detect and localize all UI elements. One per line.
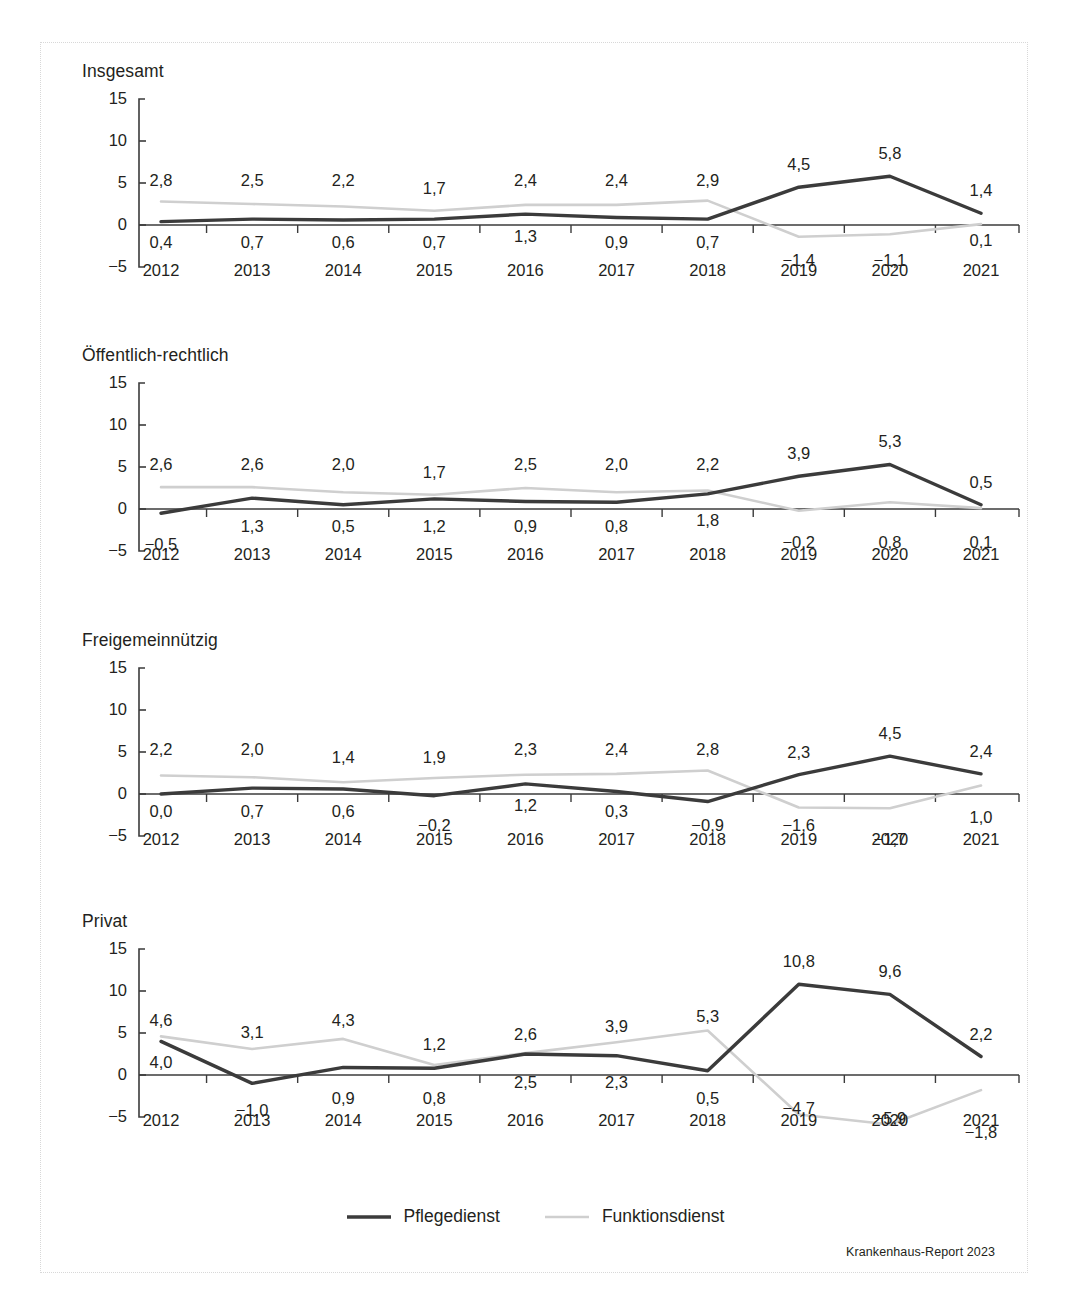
- data-value-label: 2,2: [676, 455, 740, 474]
- data-value-label: 4,0: [129, 1053, 193, 1072]
- data-value-label: 0,4: [129, 233, 193, 252]
- data-value-label: 5,3: [676, 1007, 740, 1026]
- x-axis-label: 2016: [493, 830, 557, 849]
- data-value-label: 3,9: [585, 1017, 649, 1036]
- data-value-label: 3,9: [767, 444, 831, 463]
- y-axis-label: −5: [93, 541, 127, 560]
- data-value-label: −0,5: [129, 535, 193, 554]
- data-value-label: 2,3: [585, 1073, 649, 1092]
- y-axis-label: 5: [93, 173, 127, 192]
- data-value-label: 2,0: [220, 740, 284, 759]
- data-value-label: −1,0: [220, 1101, 284, 1120]
- x-axis-label: 2015: [402, 1111, 466, 1130]
- data-value-label: −1,7: [858, 830, 922, 849]
- data-value-label: 0,0: [129, 802, 193, 821]
- data-value-label: 2,2: [949, 1025, 1013, 1044]
- x-axis-label: 2012: [129, 830, 193, 849]
- x-axis-label: 2018: [676, 1111, 740, 1130]
- y-axis-label: 15: [93, 373, 127, 392]
- data-value-label: 5,8: [858, 144, 922, 163]
- data-value-label: 3,1: [220, 1023, 284, 1042]
- data-value-label: 1,2: [402, 1035, 466, 1054]
- y-axis-label: 5: [93, 457, 127, 476]
- data-value-label: 0,8: [858, 533, 922, 552]
- x-axis-label: 2017: [585, 830, 649, 849]
- y-axis-label: 5: [93, 1023, 127, 1042]
- plot-area: 151050−520122013201420152016201720182019…: [41, 660, 1029, 875]
- y-axis-label: 15: [93, 89, 127, 108]
- data-value-label: 2,6: [129, 455, 193, 474]
- data-value-label: 2,0: [311, 455, 375, 474]
- data-value-label: −1,4: [767, 251, 831, 270]
- x-axis-label: 2017: [585, 545, 649, 564]
- data-value-label: 1,2: [402, 517, 466, 536]
- plot-area: 151050−520122013201420152016201720182019…: [41, 91, 1029, 306]
- x-axis-label: 2016: [493, 545, 557, 564]
- x-axis-label: 2012: [129, 261, 193, 280]
- data-value-label: 0,6: [311, 802, 375, 821]
- data-value-label: 2,5: [493, 455, 557, 474]
- data-value-label: 2,4: [493, 171, 557, 190]
- panel-title: Öffentlich-rechtlich: [82, 345, 229, 366]
- light-line-icon: [544, 1208, 590, 1226]
- y-axis-label: 15: [93, 658, 127, 677]
- data-value-label: 4,5: [858, 724, 922, 743]
- y-axis-label: 15: [93, 939, 127, 958]
- x-axis-label: 2016: [493, 1111, 557, 1130]
- x-axis-label: 2013: [220, 830, 284, 849]
- data-value-label: 0,8: [585, 517, 649, 536]
- data-value-label: −1,1: [858, 251, 922, 270]
- data-value-label: 1,9: [402, 748, 466, 767]
- y-axis-label: 10: [93, 700, 127, 719]
- legend-label: Funktionsdienst: [602, 1206, 725, 1227]
- data-value-label: 2,5: [220, 171, 284, 190]
- x-axis-label: 2015: [402, 261, 466, 280]
- panel-title: Freigemeinnützig: [82, 630, 218, 651]
- data-value-label: 2,0: [585, 455, 649, 474]
- data-value-label: 4,5: [767, 155, 831, 174]
- data-value-label: 0,5: [676, 1089, 740, 1108]
- panel-title: Insgesamt: [82, 61, 164, 82]
- data-value-label: 10,8: [767, 952, 831, 971]
- x-axis-label: 2013: [220, 261, 284, 280]
- x-axis-label: 2021: [949, 830, 1013, 849]
- data-value-label: 1,0: [949, 808, 1013, 827]
- y-axis-label: −5: [93, 826, 127, 845]
- data-value-label: 2,5: [493, 1073, 557, 1092]
- y-axis-label: 10: [93, 131, 127, 150]
- data-value-label: −0,9: [676, 816, 740, 835]
- data-value-label: −0,2: [767, 533, 831, 552]
- y-axis-label: 10: [93, 981, 127, 1000]
- x-axis-label: 2016: [493, 261, 557, 280]
- data-value-label: 0,7: [220, 802, 284, 821]
- data-value-label: −5,9: [858, 1109, 922, 1128]
- data-value-label: 4,6: [129, 1011, 193, 1030]
- data-value-label: 0,8: [402, 1089, 466, 1108]
- x-axis-label: 2014: [311, 545, 375, 564]
- data-value-label: 1,8: [676, 511, 740, 530]
- x-axis-label: 2017: [585, 1111, 649, 1130]
- data-value-label: 4,3: [311, 1011, 375, 1030]
- data-value-label: 1,3: [220, 517, 284, 536]
- data-value-label: 1,4: [949, 181, 1013, 200]
- y-axis-label: 5: [93, 742, 127, 761]
- source-note: Krankenhaus-Report 2023: [846, 1245, 995, 1259]
- legend-item-pflegedienst: Pflegedienst: [346, 1206, 500, 1227]
- data-value-label: 2,8: [129, 171, 193, 190]
- data-value-label: 9,6: [858, 962, 922, 981]
- data-value-label: 0,9: [493, 517, 557, 536]
- data-value-label: −0,2: [402, 816, 466, 835]
- x-axis-label: 2012: [129, 1111, 193, 1130]
- y-axis-label: −5: [93, 1107, 127, 1126]
- x-axis-label: 2013: [220, 545, 284, 564]
- solid-line-icon: [346, 1208, 392, 1226]
- x-axis-label: 2014: [311, 830, 375, 849]
- data-value-label: 0,5: [949, 473, 1013, 492]
- y-axis-label: 10: [93, 415, 127, 434]
- x-axis-label: 2014: [311, 261, 375, 280]
- data-value-label: 0,3: [585, 802, 649, 821]
- data-value-label: 2,2: [129, 740, 193, 759]
- y-axis-label: 0: [93, 784, 127, 803]
- x-axis-label: 2018: [676, 545, 740, 564]
- data-value-label: 0,7: [676, 233, 740, 252]
